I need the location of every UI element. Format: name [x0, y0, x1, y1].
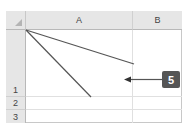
diagonal-lines	[0, 0, 185, 127]
arrow-left-icon	[124, 77, 131, 83]
callout-badge: 5	[162, 71, 180, 88]
